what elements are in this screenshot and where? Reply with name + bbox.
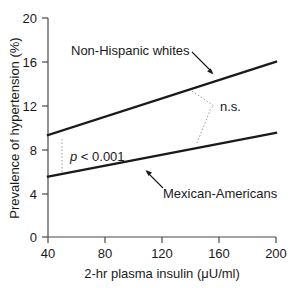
y-tick-labels: 20 16 12 8 4 0	[23, 11, 37, 245]
x-tick-label-80: 80	[98, 246, 112, 261]
upper-series-label-group: Non-Hispanic whites	[71, 43, 214, 75]
p-value-expression: < 0.001	[77, 149, 124, 164]
y-tick-label-8: 8	[30, 143, 37, 158]
series-label-non-hispanic-whites: Non-Hispanic whites	[71, 43, 190, 58]
x-axis-title: 2-hr plasma insulin (μU/ml)	[84, 266, 240, 281]
ns-dotted-brace	[192, 91, 214, 143]
y-tick-label-20: 20	[23, 11, 37, 26]
series-label-mexican-americans: Mexican-Americans	[163, 186, 278, 201]
lower-series-arrow-head	[146, 170, 153, 176]
y-tick-label-4: 4	[30, 187, 37, 202]
y-tick-label-16: 16	[23, 55, 37, 70]
p-value-symbol: p	[69, 149, 77, 164]
p-value-label: p < 0.001	[69, 149, 125, 164]
x-tick-label-200: 200	[265, 246, 287, 261]
y-tick-marks	[42, 18, 48, 237]
prevalence-vs-insulin-line-chart: 20 16 12 8 4 0 40 80 120 160 200 2-hr pl…	[0, 0, 295, 288]
y-tick-label-12: 12	[23, 99, 37, 114]
x-axis-title-mu-symbol: μ	[201, 266, 209, 281]
x-axis-title-suffix: U/ml)	[209, 266, 240, 281]
x-tick-marks	[48, 237, 276, 243]
x-tick-label-120: 120	[151, 246, 173, 261]
ns-label: n.s.	[220, 99, 241, 114]
upper-series-arrow-head	[207, 68, 213, 74]
x-tick-label-160: 160	[208, 246, 230, 261]
upper-series-arrow-shaft	[192, 52, 212, 72]
x-tick-labels: 40 80 120 160 200	[41, 246, 287, 261]
x-axis-title-prefix: 2-hr plasma insulin (	[84, 266, 202, 281]
x-tick-label-40: 40	[41, 246, 55, 261]
chart-figure: 20 16 12 8 4 0 40 80 120 160 200 2-hr pl…	[0, 0, 295, 288]
ns-annotation-group: n.s.	[192, 91, 241, 143]
y-axis-title: Prevalence of hypertension (%)	[7, 37, 22, 218]
lower-series-label-group: Mexican-Americans	[146, 170, 278, 201]
y-tick-label-0: 0	[30, 230, 37, 245]
series-line-non-hispanic-whites	[48, 62, 276, 135]
